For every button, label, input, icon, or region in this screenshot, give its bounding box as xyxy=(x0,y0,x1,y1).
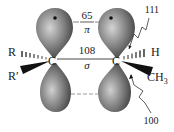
left-lobe-dot xyxy=(53,16,57,20)
left-wedge-bond xyxy=(20,61,50,74)
annotation-111: 111 xyxy=(145,4,159,15)
left-carbon-label: C xyxy=(48,54,56,68)
substituent-r: R xyxy=(8,45,16,59)
annotation-100-arrowhead xyxy=(129,74,133,79)
right-hashed-bond xyxy=(124,49,144,60)
left-upper-lobe xyxy=(36,8,73,58)
pi-bond-value: 65 xyxy=(82,9,94,21)
substituent-ch: CH xyxy=(147,70,164,84)
right-carbon-label: C xyxy=(112,54,120,68)
right-lobe-dot xyxy=(109,16,113,20)
left-lower-lobe xyxy=(40,63,71,112)
right-upper-lobe xyxy=(98,8,135,58)
sigma-symbol: σ xyxy=(84,59,90,71)
substituent-h: H xyxy=(151,45,160,59)
pi-bond-diagram: C C R R′ H CH3 65 π 108 σ 111 100 xyxy=(0,0,174,132)
left-hashed-bond xyxy=(22,51,46,60)
pi-symbol: π xyxy=(84,23,90,35)
substituent-ch3-subscript: 3 xyxy=(164,77,168,86)
right-lower-lobe xyxy=(98,63,131,112)
sigma-bond-value: 108 xyxy=(79,44,96,56)
annotation-100: 100 xyxy=(144,115,159,126)
diagram-canvas: C C R R′ H CH3 65 π 108 σ 111 100 xyxy=(0,0,174,132)
substituent-r-prime: R′ xyxy=(8,69,19,83)
substituent-ch3: CH3 xyxy=(147,70,168,86)
